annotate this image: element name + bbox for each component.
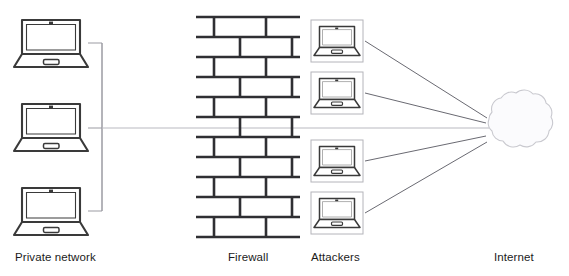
link-attacker-2 <box>365 93 486 123</box>
private-laptop-1[interactable] <box>14 20 88 67</box>
diagram-canvas: Private network Firewall Attackers Inter… <box>0 0 569 276</box>
attackers-group <box>311 20 363 234</box>
label-attackers: Attackers <box>311 251 360 263</box>
label-internet: Internet <box>494 251 534 263</box>
link-private-1 <box>88 43 102 128</box>
attacker-laptop-1[interactable] <box>311 20 363 62</box>
attacker-laptop-3[interactable] <box>311 140 363 182</box>
internet-cloud[interactable] <box>488 90 552 147</box>
network-topology-diagram <box>0 0 569 276</box>
attacker-laptop-2[interactable] <box>311 72 363 114</box>
label-private-network: Private network <box>15 251 96 263</box>
link-attacker-4 <box>365 142 487 213</box>
link-attacker-1 <box>365 41 487 118</box>
attacker-laptop-4[interactable] <box>311 192 363 234</box>
private-laptop-2[interactable] <box>14 104 88 151</box>
firewall-brick-wall[interactable] <box>196 17 300 237</box>
private-laptop-3[interactable] <box>14 188 88 235</box>
link-private-3 <box>88 128 102 211</box>
link-attacker-3 <box>365 136 486 161</box>
label-firewall: Firewall <box>228 251 268 263</box>
connection-lines <box>88 41 489 213</box>
private-network-group <box>14 20 88 235</box>
